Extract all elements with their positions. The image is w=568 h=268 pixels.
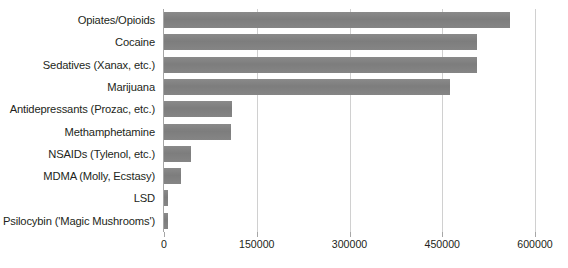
category-label-2: Sedatives (Xanax, etc.) [43, 54, 155, 76]
bar-2[interactable] [164, 57, 477, 73]
bar-row [164, 143, 535, 165]
bar-6[interactable] [164, 146, 191, 162]
plot-area [164, 9, 535, 232]
bar-0[interactable] [164, 12, 510, 28]
category-label-3: Marijuana [107, 76, 155, 98]
category-label-0: Opiates/Opioids [78, 9, 155, 31]
bar-5[interactable] [164, 124, 231, 140]
bar-row [164, 54, 535, 76]
x-tick-0 [164, 232, 165, 237]
category-label-6: NSAIDs (Tylenol, etc.) [48, 143, 155, 165]
x-tick-600000 [535, 232, 536, 237]
category-label-5: Methamphetamine [65, 121, 155, 143]
bar-row [164, 76, 535, 98]
x-tick-label-0: 0 [161, 238, 167, 250]
x-tick-label-450000: 450000 [425, 238, 460, 250]
category-label-8: LSD [134, 187, 155, 209]
bar-1[interactable] [164, 34, 477, 50]
bar-row [164, 210, 535, 232]
x-tick-450000 [442, 232, 443, 237]
bar-9[interactable] [164, 213, 168, 229]
category-label-1: Cocaine [115, 31, 155, 53]
category-label-column: Opiates/OpioidsCocaineSedatives (Xanax, … [0, 9, 159, 232]
bar-row [164, 9, 535, 31]
bar-row [164, 165, 535, 187]
bar-chart: Opiates/OpioidsCocaineSedatives (Xanax, … [0, 0, 568, 268]
x-tick-label-600000: 600000 [517, 238, 552, 250]
x-tick-label-300000: 300000 [332, 238, 367, 250]
bar-row [164, 31, 535, 53]
bar-4[interactable] [164, 101, 232, 117]
bar-row [164, 98, 535, 120]
gridline-600000 [535, 9, 536, 232]
bar-3[interactable] [164, 79, 450, 95]
x-tick-label-150000: 150000 [239, 238, 274, 250]
x-tick-150000 [257, 232, 258, 237]
bar-row [164, 121, 535, 143]
category-label-9: Psilocybin ('Magic Mushrooms') [3, 210, 155, 232]
category-label-7: MDMA (Molly, Ecstasy) [43, 165, 155, 187]
bar-7[interactable] [164, 168, 181, 184]
x-tick-300000 [350, 232, 351, 237]
category-label-4: Antidepressants (Prozac, etc.) [10, 98, 155, 120]
bar-8[interactable] [164, 190, 168, 206]
bar-row [164, 187, 535, 209]
